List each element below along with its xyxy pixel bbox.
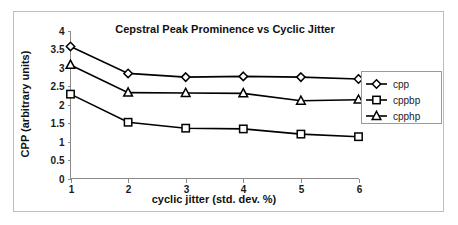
chart-container: 00.511.522.533.54 123456 Cepstral Peak P… bbox=[0, 0, 458, 225]
legend-label: cppbp bbox=[393, 95, 421, 106]
y-axis-title: CPP (arbitrary units) bbox=[19, 50, 31, 157]
chart-title: Cepstral Peak Prominence vs Cyclic Jitte… bbox=[115, 23, 335, 35]
diamond-marker-icon bbox=[124, 69, 132, 77]
square-marker-icon bbox=[240, 125, 247, 132]
y-tick-label: 1 bbox=[59, 137, 65, 148]
y-tick-label: 3.5 bbox=[51, 44, 65, 55]
legend-label: cpp bbox=[393, 79, 410, 90]
legend-label: cpphp bbox=[393, 111, 421, 122]
diamond-marker-icon bbox=[182, 73, 190, 81]
diamond-marker-icon bbox=[239, 72, 247, 80]
x-tick-label: 6 bbox=[357, 184, 363, 195]
chart-legend: cppcppbpcpphp bbox=[362, 72, 442, 124]
x-tick-label: 2 bbox=[126, 184, 132, 195]
y-tick-label: 3 bbox=[59, 63, 65, 74]
series-cppbp bbox=[67, 90, 362, 140]
x-tick-label: 1 bbox=[69, 184, 75, 195]
line-chart-plot: 00.511.522.533.54 123456 Cepstral Peak P… bbox=[0, 0, 458, 225]
square-marker-icon bbox=[182, 124, 189, 131]
legend-item-cppbp[interactable]: cppbp bbox=[366, 95, 421, 106]
y-tick-label: 2.5 bbox=[51, 81, 65, 92]
y-tick-label: 0.5 bbox=[51, 155, 65, 166]
x-tick-label: 5 bbox=[299, 184, 305, 195]
square-marker-icon bbox=[373, 96, 380, 103]
y-tick-label: 2 bbox=[59, 100, 65, 111]
y-tick-label: 4 bbox=[59, 26, 65, 37]
series-cpp bbox=[66, 42, 362, 83]
y-tick-label: 0 bbox=[59, 174, 65, 185]
series-line-cpphp bbox=[71, 65, 359, 101]
square-marker-icon bbox=[124, 119, 131, 126]
y-axis-tick-labels: 00.511.522.533.54 bbox=[51, 26, 65, 185]
series-cpphp bbox=[66, 60, 363, 104]
square-marker-icon bbox=[297, 130, 304, 137]
x-axis-ticks bbox=[72, 179, 360, 183]
series-line-cpp bbox=[71, 46, 359, 79]
triangle-marker-icon bbox=[66, 60, 75, 68]
diamond-marker-icon bbox=[297, 73, 305, 81]
square-marker-icon bbox=[355, 133, 362, 140]
data-series-layer bbox=[66, 42, 363, 140]
x-axis-title: cyclic jitter (std. dev. %) bbox=[152, 193, 277, 205]
y-tick-label: 1.5 bbox=[51, 118, 65, 129]
square-marker-icon bbox=[67, 90, 74, 97]
